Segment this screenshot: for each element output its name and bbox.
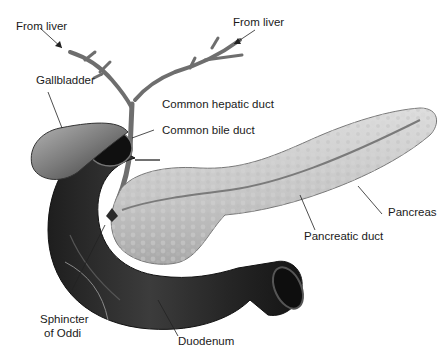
label-from-liver-left: From liver <box>16 20 67 32</box>
label-duodenum: Duodenum <box>178 335 234 347</box>
label-pancreas: Pancreas <box>388 206 437 218</box>
label-sphincter-line2: of Oddi <box>44 327 81 339</box>
label-from-liver-right: From liver <box>233 16 284 28</box>
anatomy-illustration: From liver From liver Gallbladder Common… <box>0 0 447 360</box>
label-common-bile-duct: Common bile duct <box>162 124 255 136</box>
pancreas-shape <box>106 108 437 264</box>
label-common-hepatic-duct: Common hepatic duct <box>162 98 275 110</box>
label-gallbladder: Gallbladder <box>36 74 95 86</box>
label-sphincter-line1: Sphincter <box>40 313 89 325</box>
label-pancreatic-duct: Pancreatic duct <box>304 230 384 242</box>
